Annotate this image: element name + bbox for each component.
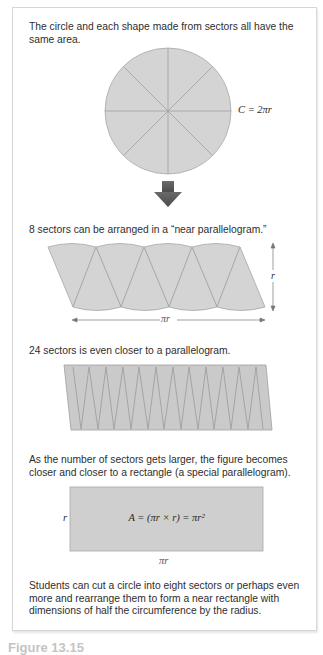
eight-sector-parallelogram xyxy=(48,244,265,311)
twenty-four-sectors-text: 24 sectors is even closer to a parallelo… xyxy=(29,345,309,358)
eight-sectors-height-label: r xyxy=(270,270,276,281)
rectangle-height-label: r xyxy=(63,512,67,523)
rectangle-width-label: πr xyxy=(159,555,168,566)
circle-8-sectors xyxy=(105,48,231,174)
eight-sectors-text: 8 sectors can be arranged in a “near par… xyxy=(29,224,309,237)
down-arrow-icon xyxy=(154,181,182,207)
rectangle-text: As the number of sectors gets larger, th… xyxy=(29,454,309,479)
area-formula: A = (πr × r) = πr² xyxy=(70,512,263,523)
circumference-label: C = 2πr xyxy=(238,104,272,115)
twenty-four-sector-parallelogram xyxy=(64,365,272,430)
conclusion-text: Students can cut a circle into eight sec… xyxy=(29,580,311,618)
figure-caption: Figure 13.15 xyxy=(8,640,84,655)
eight-sectors-width-label: πr xyxy=(161,313,170,324)
